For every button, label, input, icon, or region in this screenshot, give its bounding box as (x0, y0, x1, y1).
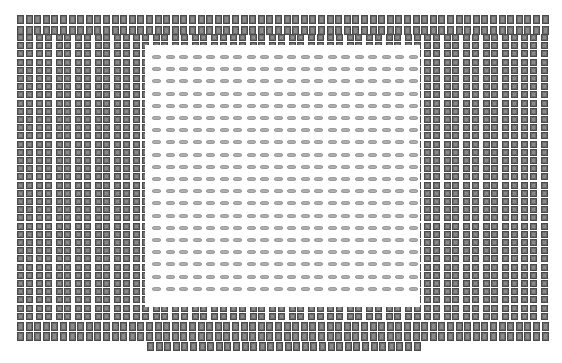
core-bump (247, 79, 256, 83)
io-pad (472, 255, 479, 262)
io-pad (103, 322, 110, 331)
core-bump (220, 116, 229, 120)
io-pad (424, 305, 431, 312)
core-bump (382, 128, 391, 132)
io-pad (511, 50, 518, 57)
io-pad (452, 214, 459, 221)
io-pad (36, 313, 43, 320)
io-pad (64, 157, 71, 164)
io-pad (84, 83, 91, 90)
core-bump (301, 287, 310, 291)
io-pad (318, 15, 325, 24)
core-bump (301, 92, 310, 96)
io-pad (473, 15, 480, 24)
io-pad (36, 132, 43, 139)
io-pad (327, 34, 334, 41)
io-pad (511, 157, 518, 164)
io-pad (34, 15, 41, 24)
io-pad (394, 313, 401, 320)
io-pad (463, 206, 470, 213)
io-pad (530, 50, 537, 57)
core-bump (260, 201, 269, 205)
io-pad (483, 239, 490, 246)
io-pad (133, 214, 140, 221)
io-pad (56, 34, 63, 41)
io-pad (56, 108, 63, 115)
io-pad (530, 198, 537, 205)
io-pad (84, 206, 91, 213)
core-bump (179, 250, 188, 254)
io-pad (172, 332, 179, 341)
core-bump (233, 177, 242, 181)
core-bump (206, 140, 215, 144)
io-pad (464, 15, 471, 24)
core-bump (233, 104, 242, 108)
core-bump (166, 92, 175, 96)
io-pad (433, 91, 440, 98)
core-bump (382, 104, 391, 108)
io-pad (472, 124, 479, 131)
core-bump (395, 177, 404, 181)
core-bump (368, 67, 377, 71)
io-pad (521, 206, 528, 213)
core-bump (314, 250, 323, 254)
io-pad (133, 190, 140, 197)
io-pad (370, 322, 377, 331)
core-bump (341, 287, 350, 291)
io-pad (533, 332, 540, 341)
io-pad (64, 206, 71, 213)
io-pad (530, 42, 537, 49)
io-pad (75, 264, 82, 271)
core-bump (220, 67, 229, 71)
core-bump (274, 92, 283, 96)
io-pad (444, 247, 451, 254)
io-pad (45, 173, 52, 180)
core-bump (328, 140, 337, 144)
io-pad (521, 116, 528, 123)
io-pad (530, 231, 537, 238)
io-pad (123, 132, 130, 139)
core-bump (409, 104, 418, 108)
core-bump (193, 67, 202, 71)
io-pad (463, 288, 470, 295)
io-pad (444, 206, 451, 213)
io-pad (327, 332, 334, 341)
core-bump (166, 165, 175, 169)
io-pad (414, 34, 421, 41)
io-pad (17, 132, 24, 139)
io-pad (45, 296, 52, 303)
io-pad (103, 231, 110, 238)
io-pad (112, 332, 119, 341)
io-pad (133, 313, 140, 320)
core-bump (152, 250, 161, 254)
core-bump (395, 214, 404, 218)
io-pad (36, 75, 43, 82)
io-pad (129, 332, 136, 341)
io-pad (36, 272, 43, 279)
core-bump (193, 165, 202, 169)
io-pad (123, 116, 130, 123)
core-bump (179, 92, 188, 96)
io-pad (64, 173, 71, 180)
io-pad (17, 272, 24, 279)
io-pad (84, 296, 91, 303)
io-pad (17, 100, 24, 107)
io-pad (424, 288, 431, 295)
core-bump (328, 250, 337, 254)
io-pad (155, 332, 162, 341)
io-pad (249, 322, 256, 331)
core-bump (260, 104, 269, 108)
io-pad (17, 280, 24, 287)
io-pad (347, 313, 354, 320)
io-pad (395, 322, 402, 331)
io-pad (95, 50, 102, 57)
io-pad (511, 83, 518, 90)
io-pad (444, 149, 451, 156)
io-pad (491, 214, 498, 221)
io-pad (511, 198, 518, 205)
io-pad (491, 59, 498, 66)
io-pad (463, 255, 470, 262)
core-bump (368, 275, 377, 279)
io-pad (452, 132, 459, 139)
io-pad (463, 124, 470, 131)
